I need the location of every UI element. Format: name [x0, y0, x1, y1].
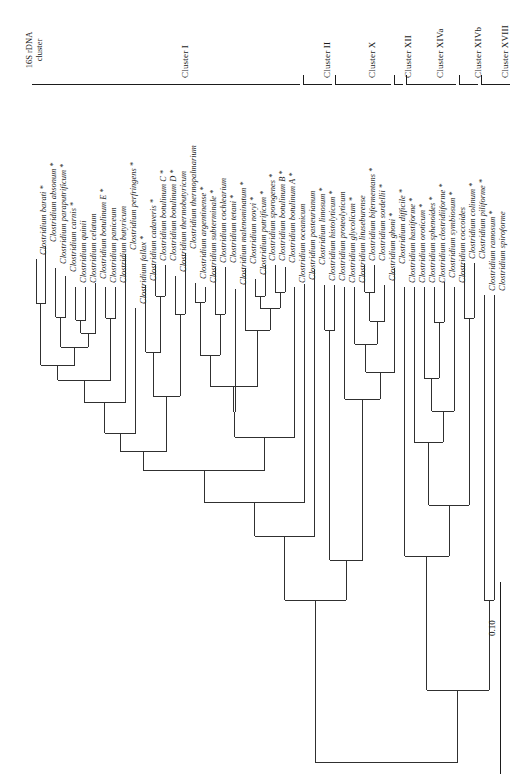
scale-bar-line: [500, 582, 501, 774]
figure-canvas: 16S rDNA cluster Cluster ICluster IIClus…: [0, 0, 517, 776]
scale-bar-label: 0.10: [487, 620, 497, 636]
tree-branches: [0, 0, 517, 776]
